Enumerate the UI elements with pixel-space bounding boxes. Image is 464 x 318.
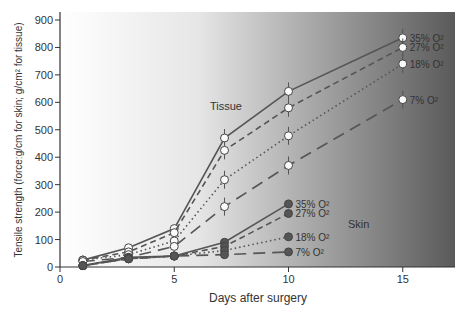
data-point <box>125 255 133 263</box>
x-tick-label: 15 <box>397 273 409 285</box>
data-point <box>285 161 293 169</box>
y-tick-label: 100 <box>35 234 53 246</box>
data-point <box>285 233 293 241</box>
data-point <box>285 200 293 208</box>
data-point <box>221 146 229 154</box>
y-tick-label: 0 <box>47 261 53 273</box>
y-tick-label: 200 <box>35 206 53 218</box>
data-point <box>285 104 293 112</box>
data-point <box>285 248 293 256</box>
y-tick-label: 500 <box>35 124 53 136</box>
y-axis-label: Tensile strength (force:g/cm for skin; g… <box>13 22 24 257</box>
data-point <box>285 132 293 140</box>
data-point <box>221 176 229 184</box>
series-label: 27% O² <box>296 208 331 219</box>
y-tick-label: 400 <box>35 151 53 163</box>
x-tick-label: 0 <box>57 273 63 285</box>
y-tick-label: 700 <box>35 69 53 81</box>
data-point <box>399 43 407 51</box>
data-point <box>285 87 293 95</box>
y-tick-label: 300 <box>35 179 53 191</box>
data-point <box>170 229 178 237</box>
data-point <box>79 262 87 270</box>
data-point <box>221 134 229 142</box>
series-label: 7% O² <box>410 95 439 106</box>
series-label: 27% O² <box>410 42 445 53</box>
y-tick-label: 800 <box>35 41 53 53</box>
annotation-skin: Skin <box>348 218 369 230</box>
data-point <box>399 96 407 104</box>
data-point <box>399 60 407 68</box>
data-point <box>285 209 293 217</box>
data-point <box>170 242 178 250</box>
x-tick-label: 5 <box>171 273 177 285</box>
y-tick-label: 900 <box>35 14 53 26</box>
data-point <box>170 252 178 260</box>
series-label: 18% O² <box>296 232 331 243</box>
x-axis-label: Days after surgery <box>209 291 307 305</box>
annotation-tissue: Tissue <box>210 100 242 112</box>
series-label: 18% O² <box>410 59 445 70</box>
series-label: 7% O² <box>296 247 325 258</box>
tensile-strength-chart: 0100200300400500600700800900051015 35% O… <box>0 0 464 318</box>
x-tick-label: 10 <box>282 273 294 285</box>
data-point <box>221 251 229 259</box>
y-tick-label: 600 <box>35 96 53 108</box>
data-point <box>221 203 229 211</box>
